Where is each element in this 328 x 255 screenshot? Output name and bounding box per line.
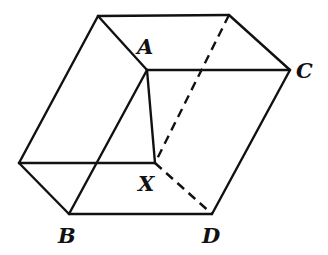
hidden-edge-X-to-D	[155, 163, 212, 214]
label-B: B	[57, 223, 76, 248]
edge-left-to-B	[19, 163, 69, 214]
label-D: D	[201, 223, 221, 248]
label-C: C	[296, 58, 313, 83]
parallelepiped-diagram: A C X B D	[0, 0, 328, 255]
edge-A-to-X	[147, 70, 155, 163]
hidden-edge-topright-to-X	[155, 15, 229, 163]
label-X: X	[136, 171, 155, 196]
edge-C-to-D	[212, 70, 290, 214]
edge-topleft-to-left	[19, 16, 98, 163]
edge-A-to-B	[69, 70, 147, 214]
edge-topright-to-C	[229, 15, 290, 70]
label-A: A	[135, 34, 153, 59]
edge-top-back	[98, 15, 229, 16]
